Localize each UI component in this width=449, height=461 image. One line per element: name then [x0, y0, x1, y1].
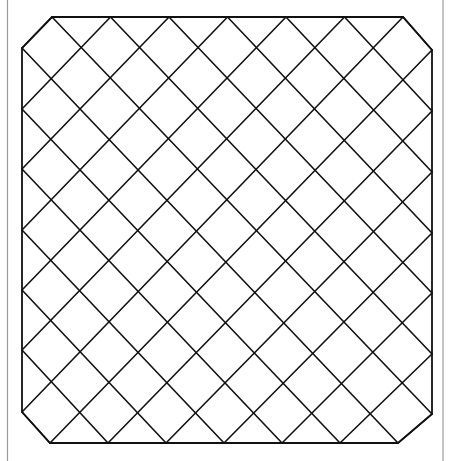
lattice-diagram [0, 0, 449, 461]
down-right-line [52, 17, 432, 414]
down-left-line [22, 17, 228, 230]
down-right-line [22, 109, 340, 443]
diamond-lattice [22, 17, 432, 443]
octagon-outline [22, 17, 432, 443]
down-right-line [111, 17, 433, 354]
down-right-line [228, 17, 433, 233]
down-left-line [398, 414, 432, 443]
down-left-line [22, 17, 403, 412]
down-right-line [169, 17, 432, 293]
down-left-line [22, 17, 345, 350]
down-right-line [22, 169, 282, 443]
down-left-line [50, 50, 432, 443]
down-left-line [22, 17, 169, 169]
down-left-line [22, 17, 52, 48]
down-right-line [286, 17, 432, 172]
down-left-line [224, 233, 432, 443]
down-right-line [22, 412, 50, 443]
down-right-line [22, 230, 224, 443]
down-right-line [22, 290, 166, 443]
down-right-line [403, 17, 432, 50]
down-left-line [282, 293, 432, 443]
page-edge-lines [8, 0, 444, 461]
down-left-line [108, 111, 432, 443]
down-left-line [166, 172, 432, 443]
down-left-line [22, 17, 286, 290]
